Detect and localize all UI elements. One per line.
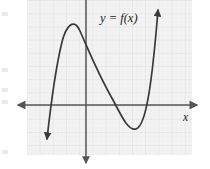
graph-canvas: y = f(x) x: [0, 0, 210, 169]
x-axis-label: x: [182, 111, 189, 123]
function-label: y = f(x): [98, 11, 138, 25]
graph-figure: y = f(x) x: [0, 0, 210, 169]
